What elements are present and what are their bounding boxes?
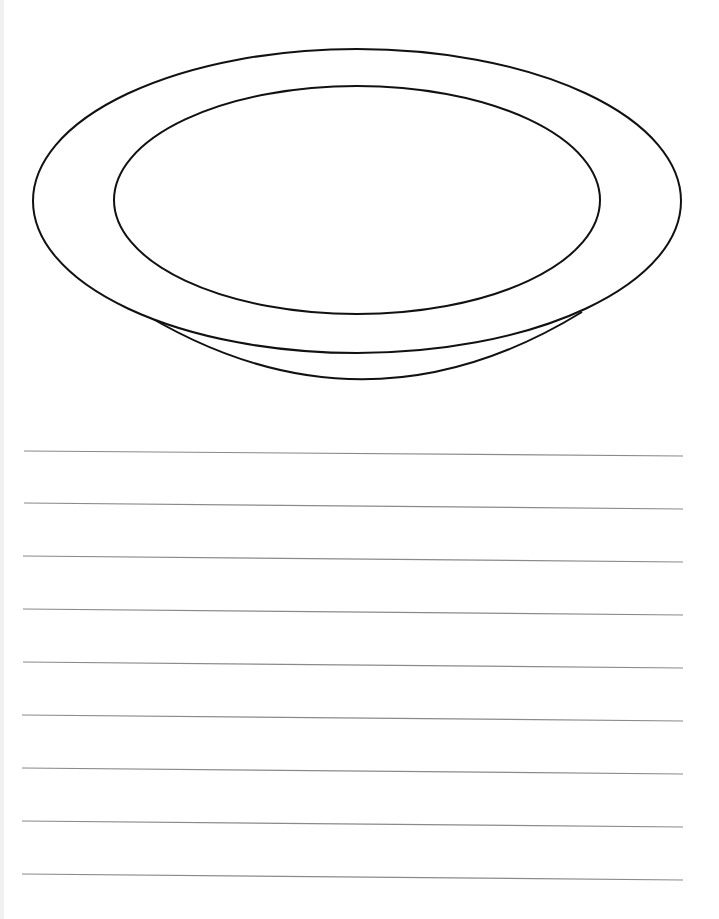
writing-lines: [22, 451, 683, 880]
writing-line-2: [24, 503, 683, 509]
writing-line-1: [24, 451, 683, 456]
writing-line-5: [23, 662, 683, 668]
writing-line-6: [22, 715, 683, 721]
plate-illustration: [0, 0, 719, 919]
writing-line-3: [23, 556, 683, 562]
writing-line-7: [22, 768, 683, 774]
writing-line-8: [22, 821, 683, 827]
writing-line-4: [23, 609, 683, 615]
worksheet-page: [0, 0, 719, 919]
writing-line-9: [22, 874, 683, 880]
plate-well-outline: [114, 86, 600, 314]
